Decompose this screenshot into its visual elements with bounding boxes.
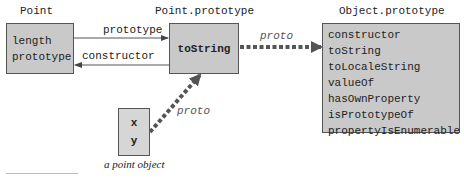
point-object-caption: a point object (104, 158, 165, 170)
point-item-prototype: prototype (12, 49, 73, 65)
footer-rule (6, 173, 78, 174)
point-item-length: length (12, 33, 73, 49)
proto-label-top: proto (260, 30, 293, 42)
object-prototype-box: constructor toString toLocaleString valu… (322, 23, 460, 133)
object-prototype-item-hasownproperty: hasOwnProperty (328, 91, 459, 107)
prototype-chain-diagram: Point length prototype prototype constru… (0, 0, 464, 185)
point-prototype-title: Point.prototype (155, 5, 254, 17)
object-prototype-item-valueof: valueOf (328, 75, 459, 91)
point-object-box: x y (118, 108, 150, 156)
proto-label-bottom: proto (177, 105, 210, 117)
object-prototype-item-tolocalestring: toLocaleString (328, 59, 459, 75)
constructor-label: constructor (82, 50, 155, 62)
object-prototype-item-propertyisenumerable: propertyIsEnumerable (328, 123, 459, 139)
object-prototype-title: Object.prototype (339, 5, 445, 17)
prototype-label: prototype (103, 24, 162, 36)
point-object-item-x: x (131, 114, 138, 132)
point-box: length prototype (6, 23, 74, 74)
object-prototype-item-constructor: constructor (328, 27, 459, 43)
proto-arrow-bottom (150, 75, 200, 132)
point-object-item-y: y (131, 132, 138, 150)
point-prototype-box: toString (169, 23, 239, 74)
object-prototype-item-tostring: toString (328, 43, 459, 59)
point-title: Point (20, 5, 53, 17)
object-prototype-item-isprototypeof: isPrototypeOf (328, 107, 459, 123)
point-prototype-item-tostring: toString (178, 41, 231, 57)
